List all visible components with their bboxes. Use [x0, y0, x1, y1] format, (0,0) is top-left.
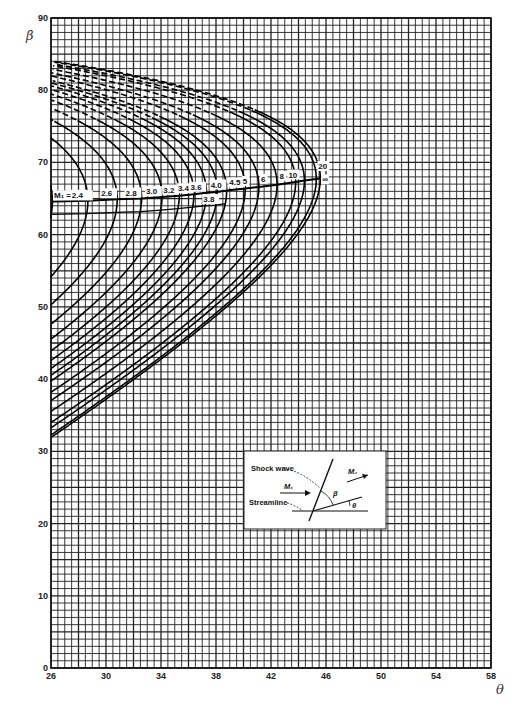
svg-text:2.8: 2.8: [126, 189, 138, 198]
svg-text:80: 80: [38, 85, 48, 95]
svg-text:20: 20: [38, 519, 48, 529]
svg-text:50: 50: [376, 671, 386, 681]
grid: [51, 18, 491, 668]
svg-text:60: 60: [38, 230, 48, 240]
svg-text:∞: ∞: [322, 175, 328, 184]
svg-text:54: 54: [431, 671, 441, 681]
svg-text:58: 58: [486, 671, 496, 681]
axis-ticks: 2630343842465054580102030405060708090: [38, 13, 496, 681]
svg-text:90: 90: [38, 13, 48, 23]
svg-text:30: 30: [38, 446, 48, 456]
svg-text:30: 30: [101, 671, 111, 681]
svg-text:3.4: 3.4: [178, 184, 190, 193]
svg-text:5: 5: [243, 177, 248, 186]
svg-text:34: 34: [156, 671, 166, 681]
svg-text:40: 40: [38, 374, 48, 384]
y-axis-label: β: [25, 28, 34, 43]
svg-text:3.6: 3.6: [190, 183, 202, 192]
m1-label: M₁: [284, 482, 293, 491]
inset-box: [244, 451, 386, 529]
svg-text:4.5: 4.5: [229, 178, 241, 187]
inset-diagram: Shock wave Streamline M₁ M₂ β θ: [244, 451, 386, 529]
m2-label: M₂: [348, 467, 357, 476]
svg-text:3.0: 3.0: [146, 187, 158, 196]
svg-text:70: 70: [38, 157, 48, 167]
svg-text:38: 38: [211, 671, 221, 681]
oblique-shock-chart: M₁ = 2.22.42.62.83.03.23.43.63.84.04.556…: [0, 0, 514, 714]
svg-text:6: 6: [261, 175, 266, 184]
svg-text:2.6: 2.6: [101, 189, 113, 198]
svg-text:42: 42: [266, 671, 276, 681]
svg-text:4.0: 4.0: [211, 181, 223, 190]
svg-text:10: 10: [288, 171, 297, 180]
svg-text:8: 8: [280, 172, 285, 181]
svg-text:10: 10: [38, 591, 48, 601]
svg-text:2.4: 2.4: [72, 191, 84, 200]
svg-text:3.2: 3.2: [163, 186, 175, 195]
svg-text:20: 20: [318, 162, 327, 171]
svg-text:46: 46: [321, 671, 331, 681]
svg-text:50: 50: [38, 302, 48, 312]
svg-text:0: 0: [43, 663, 48, 673]
streamline-label: Streamline: [249, 498, 287, 507]
shock-wave-label: Shock wave: [251, 464, 294, 473]
svg-text:3.8: 3.8: [203, 195, 215, 204]
beta-symbol: β: [332, 489, 338, 498]
x-axis-label: θ: [496, 682, 504, 697]
